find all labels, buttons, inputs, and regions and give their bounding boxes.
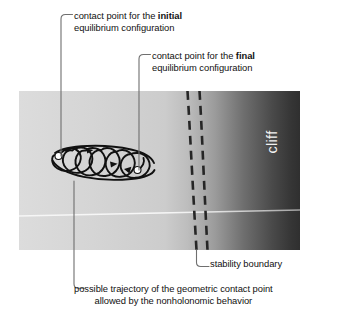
annotation-initial-contact-point: contact point for the initial equilibriu…: [74, 10, 182, 33]
cliff-label: cliff: [264, 112, 284, 172]
leader-stability-boundary: [197, 250, 210, 267]
annotation-final-contact-point: contact point for the final equilibrium …: [152, 50, 255, 73]
annotation-trajectory-line1: possible trajectory of the geometric con…: [74, 283, 273, 294]
annotation-trajectory-line2: allowed by the nonholonomic behavior: [74, 295, 273, 307]
annotation-initial-line2: equilibrium configuration: [74, 22, 174, 33]
annotation-stability-line1: stability boundary: [210, 258, 282, 269]
annotation-final-line1: contact point for the final: [152, 50, 255, 61]
annotation-stability-boundary: stability boundary: [210, 258, 282, 270]
annotation-initial-line1: contact point for the initial: [74, 10, 182, 21]
annotation-possible-trajectory: possible trajectory of the geometric con…: [74, 283, 273, 306]
final-contact-point-marker: [134, 167, 141, 174]
annotation-final-line2: equilibrium configuration: [152, 62, 252, 73]
